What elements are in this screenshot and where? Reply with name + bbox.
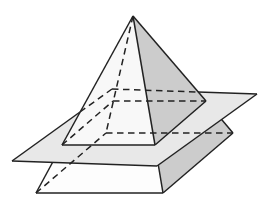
- diagram-canvas: [0, 0, 260, 212]
- pyramid-cross-section-diagram: [0, 0, 260, 212]
